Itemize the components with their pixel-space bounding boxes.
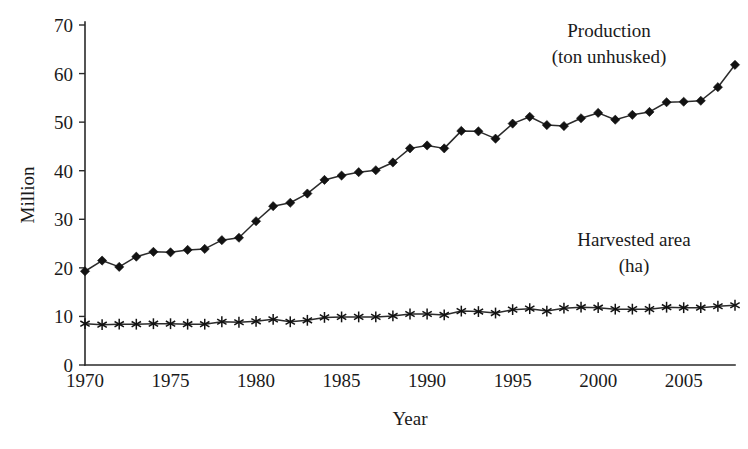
x-tick-label: 1980 bbox=[237, 370, 275, 391]
data-point-marker bbox=[371, 166, 380, 175]
harvested-area-label: Harvested area bbox=[577, 229, 691, 250]
data-point-marker bbox=[132, 252, 141, 261]
data-point-marker bbox=[559, 121, 568, 130]
data-point-marker bbox=[286, 198, 295, 207]
x-tick-label: 1970 bbox=[66, 370, 104, 391]
data-point-marker bbox=[611, 115, 620, 124]
data-point-marker bbox=[525, 112, 534, 121]
data-point-marker bbox=[628, 110, 637, 119]
y-tick-label: 60 bbox=[54, 64, 73, 85]
data-point-marker bbox=[149, 247, 158, 256]
x-tick-label: 1975 bbox=[152, 370, 190, 391]
y-tick-label: 40 bbox=[54, 161, 73, 182]
data-point-marker bbox=[166, 248, 175, 257]
data-point-marker bbox=[576, 114, 585, 123]
x-axis-title: Year bbox=[392, 408, 428, 429]
data-point-marker bbox=[115, 262, 124, 271]
data-point-marker bbox=[217, 236, 226, 245]
x-axis-group: 19701975198019851990199520002005 bbox=[66, 365, 735, 391]
chart-figure: 010203040506070 197019751980198519901995… bbox=[0, 0, 748, 449]
y-axis-title: Million bbox=[17, 166, 38, 224]
harvested-area-label: (ha) bbox=[619, 255, 650, 277]
x-tick-label: 1990 bbox=[408, 370, 446, 391]
y-tick-marks bbox=[79, 25, 85, 365]
series-markers bbox=[80, 60, 739, 330]
data-point-marker bbox=[645, 107, 654, 116]
x-tick-labels: 19701975198019851990199520002005 bbox=[66, 370, 703, 391]
chart-annotations: Production(ton unhusked)Harvested area(h… bbox=[552, 20, 692, 277]
y-tick-labels: 010203040506070 bbox=[54, 15, 73, 376]
y-tick-label: 20 bbox=[54, 258, 73, 279]
x-tick-label: 1995 bbox=[494, 370, 532, 391]
x-tick-label: 2000 bbox=[579, 370, 617, 391]
data-point-marker bbox=[662, 98, 671, 107]
y-tick-label: 10 bbox=[54, 306, 73, 327]
data-point-marker bbox=[337, 171, 346, 180]
x-tick-label: 2005 bbox=[665, 370, 703, 391]
y-tick-label: 50 bbox=[54, 112, 73, 133]
data-point-marker bbox=[200, 244, 209, 253]
data-point-marker bbox=[594, 108, 603, 117]
production-label: (ton unhusked) bbox=[552, 46, 667, 68]
chart-canvas: 010203040506070 197019751980198519901995… bbox=[0, 0, 748, 449]
data-point-marker bbox=[354, 168, 363, 177]
y-tick-label: 70 bbox=[54, 15, 73, 36]
data-point-marker bbox=[98, 256, 107, 265]
data-point-marker bbox=[474, 127, 483, 136]
production-label: Production bbox=[567, 20, 651, 41]
y-tick-label: 30 bbox=[54, 209, 73, 230]
data-point-marker bbox=[542, 120, 551, 129]
data-point-marker bbox=[423, 141, 432, 150]
data-point-marker bbox=[183, 245, 192, 254]
data-point-marker bbox=[679, 97, 688, 106]
series-polylines bbox=[85, 65, 735, 325]
x-tick-label: 1985 bbox=[323, 370, 361, 391]
